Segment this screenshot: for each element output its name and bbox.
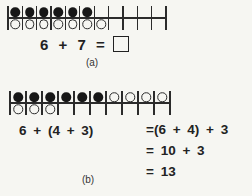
- strip-tick: [137, 6, 138, 30]
- open-counter-icon: [141, 92, 151, 102]
- strip-tick: [105, 91, 106, 115]
- equation-a: 6 + 7 =: [40, 36, 129, 53]
- open-counter-icon: [39, 19, 49, 29]
- open-counter-icon: [109, 92, 119, 102]
- filled-counter-icon: [29, 92, 39, 102]
- equation-b-step-3: = 13: [146, 164, 228, 179]
- figure-canvas: 6 + 7 = (a) 6 + (4 + 3) =(6 + 4) + 3 = 1…: [0, 0, 252, 196]
- filled-counter-icon: [13, 92, 23, 102]
- label-b: (b): [76, 174, 100, 185]
- open-counter-icon: [29, 104, 39, 114]
- strip-tick: [151, 6, 152, 30]
- open-counter-icon: [54, 19, 64, 29]
- filled-counter-icon: [77, 92, 87, 102]
- filled-counter-icon: [25, 7, 35, 17]
- equation-b-step-2: = 10 + 3: [146, 143, 228, 158]
- strip-tick: [165, 6, 166, 30]
- strip-tick: [108, 6, 109, 30]
- strip-tick: [122, 6, 123, 30]
- strip-tick: [94, 6, 95, 30]
- label-a: (a): [82, 57, 102, 68]
- counting-strip-a: [8, 6, 166, 30]
- filled-counter-icon: [82, 7, 92, 17]
- filled-counter-icon: [68, 7, 78, 17]
- strip-tick: [22, 6, 23, 30]
- open-counter-icon: [157, 92, 167, 102]
- open-counter-icon: [25, 19, 35, 29]
- strip-tick: [25, 91, 26, 115]
- strip-tick: [121, 91, 122, 115]
- strip-tick: [79, 6, 80, 30]
- strip-tick: [65, 6, 66, 30]
- strip-tick: [89, 91, 90, 115]
- filled-counter-icon: [93, 92, 103, 102]
- open-counter-icon: [13, 104, 23, 114]
- filled-counter-icon: [45, 92, 55, 102]
- filled-counter-icon: [61, 92, 71, 102]
- equation-a-text: 6 + 7 =: [40, 36, 105, 53]
- strip-tick: [7, 6, 8, 30]
- open-counter-icon: [125, 92, 135, 102]
- strip-tick: [153, 91, 154, 115]
- strip-tick: [41, 91, 42, 115]
- open-counter-icon: [10, 19, 20, 29]
- strip-tick: [50, 6, 51, 30]
- filled-counter-icon: [39, 7, 49, 17]
- strip-tick: [137, 91, 138, 115]
- open-counter-icon: [82, 19, 92, 29]
- open-counter-icon: [68, 19, 78, 29]
- answer-box: [113, 36, 129, 52]
- filled-counter-icon: [10, 7, 20, 17]
- strip-tick: [169, 91, 170, 115]
- strip-tick: [36, 6, 37, 30]
- strip-tick: [9, 91, 10, 115]
- counting-strip-b: [10, 91, 170, 115]
- filled-counter-icon: [54, 7, 64, 17]
- strip-tick: [73, 91, 74, 115]
- equation-b-step-1: =(6 + 4) + 3: [146, 122, 228, 137]
- strip-midline: [8, 17, 166, 18]
- equation-b-steps: =(6 + 4) + 3 = 10 + 3 = 13: [146, 122, 228, 185]
- strip-tick: [57, 91, 58, 115]
- open-counter-icon: [45, 104, 55, 114]
- equation-b-left: 6 + (4 + 3): [19, 123, 93, 138]
- open-counter-icon: [97, 19, 107, 29]
